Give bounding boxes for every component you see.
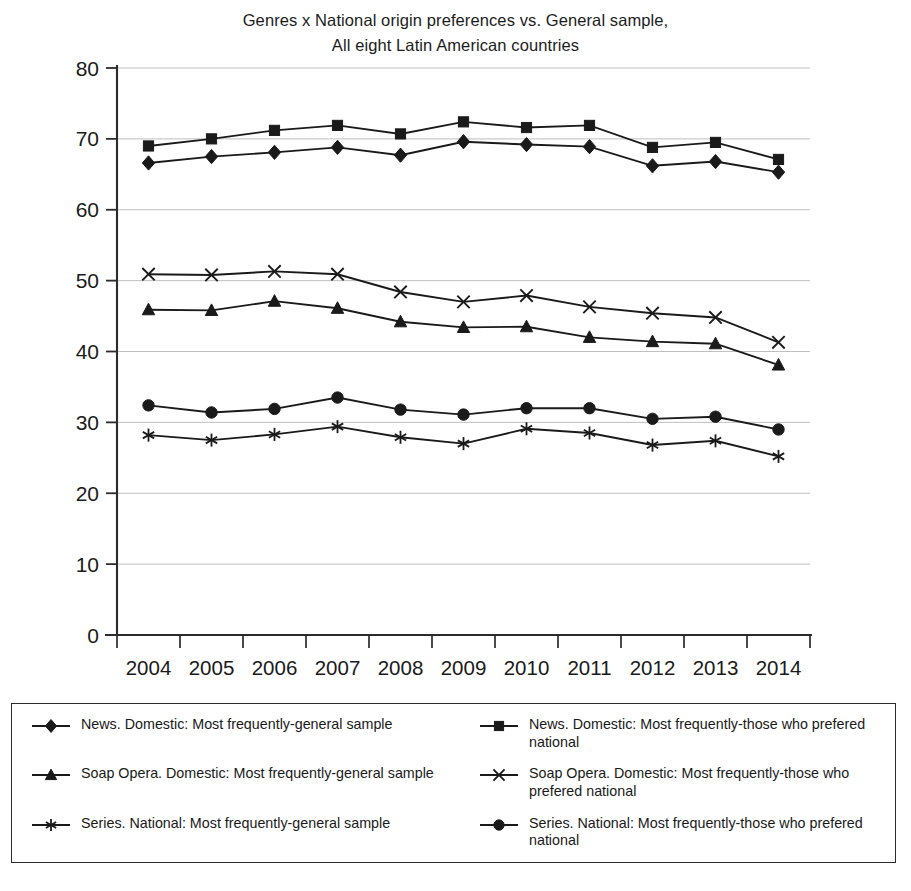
x-tick-label: 2004 bbox=[126, 656, 172, 679]
legend-item-label: Series. National: Most frequently-genera… bbox=[81, 815, 390, 833]
series-4 bbox=[143, 420, 784, 463]
data-point-square bbox=[143, 141, 153, 151]
data-point-square bbox=[494, 721, 503, 730]
chart-title: Genres x National origin preferences vs.… bbox=[0, 0, 911, 58]
legend-marker-diamond-icon bbox=[30, 717, 72, 735]
data-point-diamond bbox=[394, 148, 406, 162]
data-point-circle bbox=[521, 402, 532, 413]
data-point-circle bbox=[494, 820, 504, 830]
y-tick-label: 0 bbox=[87, 624, 99, 647]
data-point-circle bbox=[269, 403, 280, 414]
legend-item-label: News. Domestic: Most frequently-those wh… bbox=[529, 716, 889, 751]
y-tick-label: 50 bbox=[76, 269, 99, 292]
data-point-circle bbox=[395, 404, 406, 415]
x-tick-label: 2006 bbox=[252, 656, 298, 679]
data-point-circle bbox=[647, 413, 658, 424]
data-point-square bbox=[773, 154, 783, 164]
data-point-circle bbox=[332, 392, 343, 403]
y-tick-label: 20 bbox=[76, 482, 99, 505]
x-axis-tick-labels: 2004200520062007200820092010201120122013… bbox=[126, 656, 802, 679]
data-point-square bbox=[584, 120, 594, 130]
data-point-square bbox=[710, 137, 720, 147]
data-point-square bbox=[206, 134, 216, 144]
data-point-circle bbox=[584, 402, 595, 413]
data-point-diamond bbox=[646, 159, 658, 173]
legend-item-label: Soap Opera. Domestic: Most frequently-ge… bbox=[81, 765, 434, 783]
data-point-circle bbox=[206, 407, 217, 418]
y-tick-label: 80 bbox=[76, 58, 99, 80]
y-tick-label: 60 bbox=[76, 198, 99, 221]
data-point-square bbox=[269, 125, 279, 135]
legend-item[interactable]: Series. National: Most frequently-those … bbox=[466, 809, 893, 858]
data-point-diamond bbox=[520, 137, 532, 151]
series-2 bbox=[142, 295, 784, 370]
data-point-triangle bbox=[268, 295, 280, 307]
data-point-diamond bbox=[45, 720, 56, 733]
data-point-circle bbox=[143, 400, 154, 411]
chart-title-line-1: Genres x National origin preferences vs.… bbox=[0, 8, 911, 33]
data-point-diamond bbox=[268, 145, 280, 159]
legend-item[interactable]: News. Domestic: Most frequently-general … bbox=[18, 710, 466, 759]
x-tick-label: 2005 bbox=[189, 656, 235, 679]
chart-title-line-2: All eight Latin American countries bbox=[0, 33, 911, 58]
y-axis-tick-labels: 01020304050607080 bbox=[76, 58, 99, 647]
y-tick-label: 10 bbox=[76, 553, 99, 576]
data-point-square bbox=[395, 129, 405, 139]
data-point-square bbox=[521, 122, 531, 132]
data-point-square bbox=[647, 142, 657, 152]
data-point-diamond bbox=[205, 149, 217, 163]
data-point-diamond bbox=[457, 135, 469, 149]
x-tick-label: 2007 bbox=[315, 656, 361, 679]
chart-container: Genres x National origin preferences vs.… bbox=[0, 0, 911, 891]
data-point-square bbox=[458, 117, 468, 127]
legend-marker-asterisk-icon bbox=[30, 816, 72, 834]
legend-item-label: News. Domestic: Most frequently-general … bbox=[81, 716, 392, 734]
line-chart-svg: 01020304050607080 2004200520062007200820… bbox=[0, 58, 911, 688]
data-point-x bbox=[772, 336, 784, 348]
series-5 bbox=[143, 392, 784, 435]
legend-marker-square-icon bbox=[478, 717, 520, 735]
plot-area: 01020304050607080 2004200520062007200820… bbox=[0, 58, 911, 688]
data-series-layer bbox=[142, 117, 784, 463]
series-0 bbox=[142, 135, 784, 180]
legend-item-label: Series. National: Most frequently-those … bbox=[529, 815, 889, 850]
series-line bbox=[149, 301, 779, 365]
x-tick-label: 2012 bbox=[630, 656, 676, 679]
data-point-circle bbox=[458, 409, 469, 420]
data-point-diamond bbox=[583, 140, 595, 154]
data-point-diamond bbox=[331, 140, 343, 154]
x-tick-label: 2011 bbox=[567, 656, 611, 679]
legend-item-label: Soap Opera. Domestic: Most frequently-th… bbox=[529, 765, 889, 800]
gridlines bbox=[117, 68, 810, 635]
x-tick-label: 2008 bbox=[378, 656, 424, 679]
legend-item[interactable]: Soap Opera. Domestic: Most frequently-ge… bbox=[18, 759, 466, 808]
x-tick-label: 2013 bbox=[693, 656, 739, 679]
chart-legend: News. Domestic: Most frequently-general … bbox=[11, 703, 896, 863]
data-point-diamond bbox=[142, 156, 154, 170]
legend-item[interactable]: Series. National: Most frequently-genera… bbox=[18, 809, 466, 858]
y-tick-label: 40 bbox=[76, 340, 99, 363]
x-tick-label: 2009 bbox=[441, 656, 487, 679]
data-point-square bbox=[332, 120, 342, 130]
data-point-circle bbox=[773, 424, 784, 435]
legend-item[interactable]: News. Domestic: Most frequently-those wh… bbox=[466, 710, 893, 759]
legend-marker-circle-icon bbox=[478, 816, 520, 834]
y-tick-label: 70 bbox=[76, 127, 99, 150]
data-point-diamond bbox=[772, 165, 784, 179]
x-tick-label: 2014 bbox=[756, 656, 802, 679]
data-point-asterisk bbox=[773, 450, 784, 463]
x-tick-label: 2010 bbox=[504, 656, 550, 679]
legend-item[interactable]: Soap Opera. Domestic: Most frequently-th… bbox=[466, 759, 893, 808]
legend-grid: News. Domestic: Most frequently-general … bbox=[12, 704, 895, 862]
y-tick-label: 30 bbox=[76, 411, 99, 434]
legend-marker-x-icon bbox=[478, 766, 520, 784]
data-point-diamond bbox=[709, 154, 721, 168]
legend-marker-triangle-icon bbox=[30, 766, 72, 784]
data-point-circle bbox=[710, 411, 721, 422]
